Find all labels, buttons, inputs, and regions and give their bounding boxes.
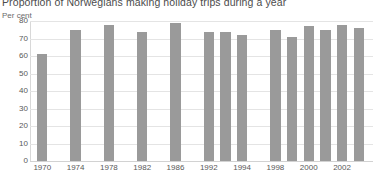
bar [220,32,230,162]
bar-chart: Proportion of Norwegians making holiday … [0,0,375,183]
bar [270,30,280,161]
bar [204,32,214,162]
bar [304,26,314,161]
gridline [30,21,373,22]
bar [337,25,347,162]
y-tick-label: 50 [2,70,28,78]
plot-area [30,21,373,161]
x-tick-label: 1982 [126,163,158,172]
y-tick-label: 0 [2,157,28,165]
x-tick-label: 1994 [226,163,258,172]
y-tick-label: 80 [2,17,28,25]
bar [104,25,114,162]
bar [287,37,297,161]
y-tick-label: 10 [2,140,28,148]
gridline [30,161,373,162]
y-tick-label: 40 [2,87,28,95]
x-tick-label: 1992 [193,163,225,172]
bar [70,30,80,161]
y-tick-label: 70 [2,35,28,43]
chart-title: Proportion of Norwegians making holiday … [2,0,373,8]
y-tick-label: 20 [2,122,28,130]
x-tick-label: 1986 [160,163,192,172]
bar [237,35,247,161]
x-tick-label: 1970 [26,163,58,172]
y-axis-tick-labels: 01020304050607080 [0,21,28,161]
x-tick-label: 1998 [259,163,291,172]
bar [137,32,147,162]
bar [170,23,180,161]
x-tick-label: 1974 [60,163,92,172]
y-tick-label: 60 [2,52,28,60]
x-tick-label: 1978 [93,163,125,172]
x-tick-label: 2002 [326,163,358,172]
bar [354,28,364,161]
bar [37,54,47,161]
y-tick-label: 30 [2,105,28,113]
bar [320,30,330,161]
x-axis-tick-labels: 1970197419781982198619921994199820002002 [30,163,373,179]
x-tick-label: 2000 [293,163,325,172]
